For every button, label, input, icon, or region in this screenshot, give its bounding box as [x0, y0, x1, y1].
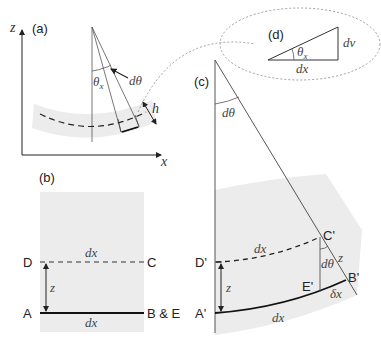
dx-bottom-b: dx	[85, 315, 98, 330]
panel-d-label: (d)	[268, 27, 284, 42]
z-label-c: z	[225, 280, 231, 295]
panel-b-label: (b)	[39, 170, 55, 185]
theta-x-label: θx	[93, 74, 103, 91]
point-E-c: E'	[302, 279, 313, 294]
dv-label-d: dv	[343, 35, 356, 50]
point-A-c: A'	[195, 306, 206, 321]
apex-dtheta-c: dθ	[222, 105, 236, 120]
dx-top-c: dx	[254, 241, 267, 256]
panel-c-label: (c)	[194, 74, 209, 89]
theta-x-label-d: θx	[297, 44, 307, 61]
point-B-c: B'	[348, 270, 359, 285]
dx-label-d: dx	[296, 61, 309, 76]
z-axis-label: z	[9, 20, 16, 35]
point-C-b: C	[147, 255, 156, 270]
dtheta-label: dθ	[129, 73, 143, 88]
x-axis-label: x	[160, 154, 168, 169]
panel-c: (c) dθ C' D' A' B' E' dx dx z z dθ δx	[194, 60, 362, 335]
dx-bottom-c: dx	[272, 310, 285, 325]
figure-canvas: z x (a) θx dθ h (d) θx dx dv (b)	[0, 0, 381, 347]
z-slant-c: z	[337, 250, 343, 265]
dtheta-arc	[104, 65, 111, 68]
panel-a: z x (a) θx dθ h	[9, 20, 168, 169]
thickness-label: h	[152, 101, 159, 116]
point-BE-b: B & E	[147, 306, 181, 321]
point-C-c: C'	[323, 228, 335, 243]
apex-arc-c	[215, 97, 239, 104]
point-D-b: D	[23, 255, 32, 270]
element-band-b	[40, 192, 144, 332]
dx-top-b: dx	[85, 245, 98, 260]
delta-x-c: δx	[330, 286, 342, 301]
z-label-b: z	[49, 280, 55, 295]
dtheta-pointer	[111, 69, 128, 78]
point-A-b: A	[23, 306, 32, 321]
point-D-c: D'	[195, 255, 207, 270]
panel-d: (d) θx dx dv	[220, 8, 380, 80]
panel-a-label: (a)	[32, 21, 48, 36]
theta-arc-d	[292, 49, 294, 60]
theta-arc	[92, 68, 104, 71]
panel-b: (b) D C A B & E dx dx z	[23, 170, 181, 332]
inner-dtheta-c: dθ	[321, 256, 335, 271]
